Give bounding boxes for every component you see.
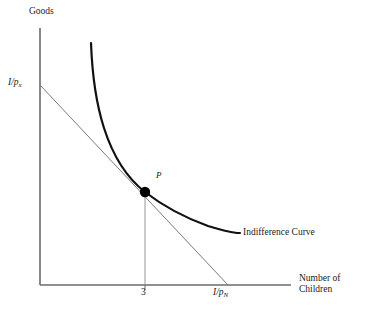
x-axis-label-line-1: Number of — [299, 273, 340, 284]
plot-canvas — [0, 0, 366, 318]
y-intercept-subscript: x — [19, 81, 22, 89]
point-p-label: P — [156, 170, 162, 181]
indifference-curve-figure: Goods I/px I/pN 3 Number of Children Ind… — [0, 0, 366, 318]
indifference-curve-path — [91, 43, 237, 233]
x-intercept-subscript: N — [224, 291, 229, 299]
y-axis-label: Goods — [29, 6, 54, 17]
x-axis-label: Number of Children — [299, 273, 340, 295]
x-tick-label-three: 3 — [141, 287, 146, 298]
budget-line — [40, 85, 228, 285]
x-intercept-label: I/pN — [213, 287, 228, 301]
indifference-curve-label: Indifference Curve — [243, 227, 315, 238]
x-axis-label-line-2: Children — [299, 284, 340, 295]
y-intercept-expression: I/p — [8, 77, 19, 87]
tangency-point-marker — [140, 187, 150, 197]
y-intercept-label: I/px — [8, 77, 22, 91]
x-intercept-expression: I/p — [213, 287, 224, 297]
